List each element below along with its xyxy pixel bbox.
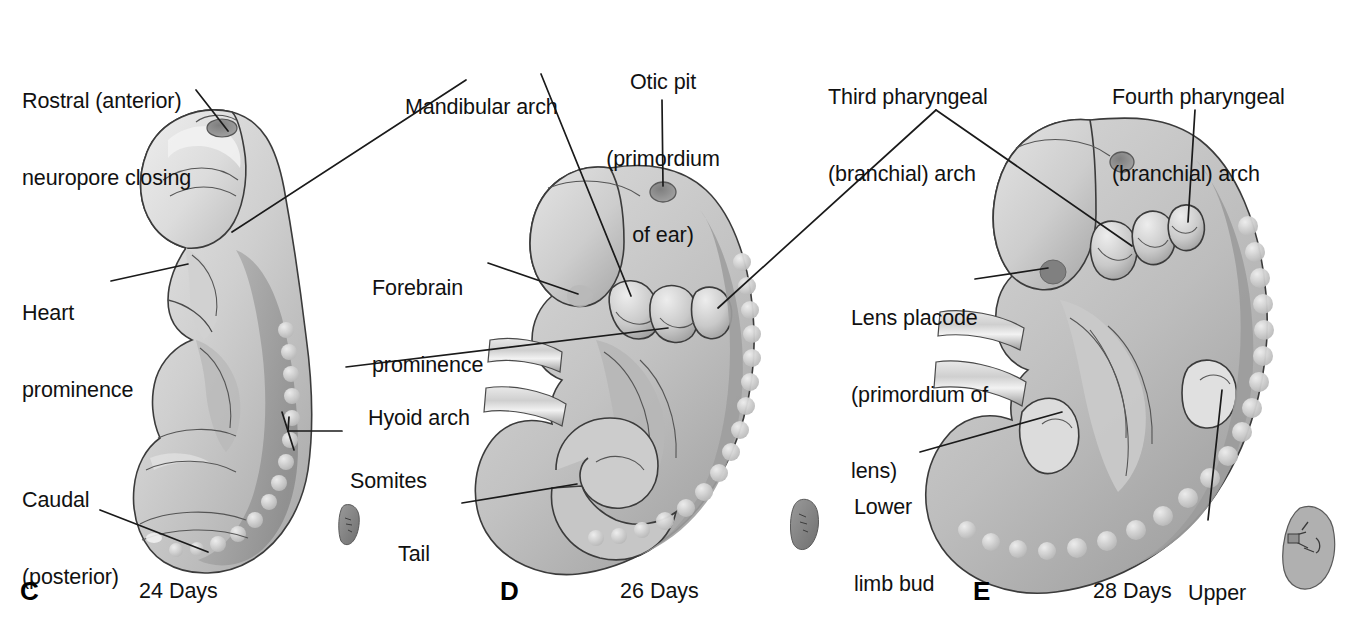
label-hyoid-arch: Hyoid arch [368,355,470,483]
label-mandibular-arch: Mandibular arch [405,44,558,172]
actual-size-silhouette-e [1283,506,1335,589]
label-line: Tail [398,542,430,568]
panel-days-d: 26 Days [620,579,699,604]
label-line: (branchial) arch [1112,162,1285,188]
panel-letter-e: E [973,576,990,607]
label-rostral-neuropore: Rostral (anterior) neuropore closing [22,38,191,242]
label-line: Third pharyngeal [828,85,988,111]
label-line: neuropore closing [22,166,191,192]
label-line: Caudal [22,488,119,514]
label-line: Rostral (anterior) [22,89,191,115]
label-line: Upper [1188,581,1268,607]
actual-size-silhouette-d [790,499,818,549]
panel-letter-c: C [20,576,39,607]
label-line: Hyoid arch [368,406,470,432]
label-line: of ear) [570,223,756,249]
label-upper-limb-bud: Upper limb bud [1188,530,1268,638]
label-heart-prominence: Heart prominence [22,250,133,454]
label-line: Fourth pharyngeal [1112,85,1285,111]
label-line: Heart [22,301,133,327]
label-third-pharyngeal-arch: Third pharyngeal (branchial) arch [828,34,988,238]
label-line: (primordium of [851,383,988,409]
label-line: limb bud [854,572,934,598]
label-line: Otic pit [570,70,756,96]
label-otic-pit: Otic pit (primordium of ear) [570,19,756,300]
label-caudal-neuropore: Caudal (posterior) neuropore open [22,437,119,638]
label-line: (branchial) arch [828,162,988,188]
figure-canvas: Rostral (anterior) neuropore closing Hea… [0,0,1358,638]
label-line: Lens placode [851,306,988,332]
panel-days-c: 24 Days [139,579,218,604]
panel-days-e: 28 Days [1093,579,1172,604]
label-fourth-pharyngeal-arch: Fourth pharyngeal (branchial) arch [1112,34,1285,238]
label-line: Lower [854,495,934,521]
label-lower-limb-bud: Lower limb bud [854,444,934,638]
label-line: (primordium [570,147,756,173]
label-line: Forebrain [372,276,483,302]
label-line: prominence [22,378,133,404]
label-tail: Tail [398,491,430,619]
panel-letter-d: D [500,576,519,607]
label-line: Mandibular arch [405,95,558,121]
